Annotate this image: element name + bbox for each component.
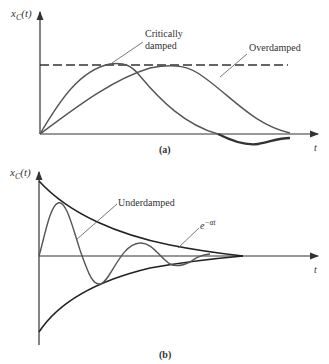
panel-b-envelope-leader <box>178 228 199 248</box>
panel-b-envelope-label: e−αt <box>200 218 216 231</box>
panel-a-overdamped-curve <box>40 66 290 134</box>
panel-b-underdamped-label: Underdamped <box>118 197 175 208</box>
panel-a-y-axis-label: xC(t) <box>10 7 32 22</box>
panel-b-underdamped-curve <box>39 203 210 284</box>
panel-a-overdamped-label: Overdamped <box>249 42 301 53</box>
panel-a-caption: (a) <box>159 144 171 156</box>
panel-b-caption: (b) <box>159 349 171 361</box>
panel-a-x-axis-label: t <box>314 142 317 153</box>
damping-response-figure: xC(t) Critically damped Overdamped t (a)… <box>0 0 329 364</box>
panel-b-y-axis-label: xC(t) <box>9 166 31 181</box>
panel-b-underdamped-leader <box>76 204 117 240</box>
panel-b: xC(t) Underdamped e−αt t (b) <box>9 166 318 361</box>
panel-a-critically-damped-label-line2: damped <box>145 40 177 51</box>
panel-a-critically-damped-undershoot <box>218 134 290 144</box>
panel-a-critically-damped-leader <box>112 42 143 63</box>
panel-a: xC(t) Critically damped Overdamped t (a) <box>10 7 318 156</box>
panel-a-critically-damped-label-line1: Critically <box>145 28 183 39</box>
panel-b-x-axis-label: t <box>314 264 317 275</box>
panel-b-lower-envelope <box>39 256 243 332</box>
panel-a-critically-damped-curve <box>40 64 218 135</box>
